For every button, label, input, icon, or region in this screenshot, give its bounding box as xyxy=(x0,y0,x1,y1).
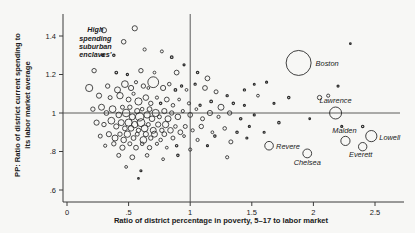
data-point-bubble xyxy=(139,68,143,72)
data-point-bubble xyxy=(273,102,275,104)
data-point-bubble xyxy=(135,113,143,121)
data-point-bubble xyxy=(214,135,216,137)
data-point-bubble xyxy=(161,85,166,90)
y-tick-label: 1 xyxy=(52,109,56,118)
data-point-bubble xyxy=(174,125,178,129)
data-point-bubble xyxy=(140,170,142,172)
data-point-bubble xyxy=(94,120,99,125)
data-point-bubble xyxy=(157,115,161,119)
data-point-bubble xyxy=(117,92,123,98)
data-point-bubble xyxy=(112,142,116,146)
data-point-bubble xyxy=(201,117,205,121)
data-point-bubble xyxy=(195,108,198,111)
data-point-bubble xyxy=(181,109,184,112)
data-point-bubble xyxy=(309,118,311,120)
data-point-bubble xyxy=(102,122,106,126)
data-point-bubble xyxy=(143,132,148,137)
y-tick-label: 1.4 xyxy=(46,32,56,41)
data-point-bubble xyxy=(159,138,163,142)
data-point-bubble xyxy=(138,178,140,180)
data-point-bubble xyxy=(183,64,185,66)
data-point-bubble xyxy=(143,95,149,101)
data-point-bubble xyxy=(132,92,135,95)
data-point-bubble xyxy=(126,97,131,102)
data-point-bubble xyxy=(253,83,255,85)
city-bubble-revere xyxy=(265,141,274,150)
data-point-bubble xyxy=(350,43,352,45)
data-point-bubble xyxy=(155,142,158,145)
city-bubble-chelsea xyxy=(303,149,312,158)
data-point-bubble xyxy=(135,98,142,105)
data-point-bubble xyxy=(131,136,136,141)
data-point-bubble xyxy=(115,87,121,93)
data-point-bubble xyxy=(174,70,179,75)
data-point-bubble xyxy=(124,131,130,137)
y-axis-title: its labor market average xyxy=(23,61,32,148)
chart-canvas: .6.811.21.40.511.522.5BostonLawrenceMald… xyxy=(0,0,415,233)
data-point-bubble xyxy=(118,132,122,136)
data-point-bubble xyxy=(196,138,199,141)
data-point-bubble xyxy=(145,154,149,158)
data-point-bubble xyxy=(96,93,101,98)
data-point-bubble xyxy=(217,115,220,118)
y-tick-label: .6 xyxy=(50,186,56,195)
data-point-bubble xyxy=(248,125,250,127)
data-point-bubble xyxy=(147,87,150,90)
data-point-bubble xyxy=(165,146,168,149)
data-point-bubble xyxy=(112,135,118,141)
data-point-bubble xyxy=(183,135,186,138)
data-point-bubble xyxy=(120,105,124,109)
data-point-bubble xyxy=(148,77,159,88)
data-point-bubble xyxy=(123,126,128,131)
data-point-bubble xyxy=(229,140,233,144)
data-point-bubble xyxy=(226,95,228,97)
x-axis-title: Ratio of district percentage in poverty,… xyxy=(114,216,329,225)
data-point-bubble xyxy=(120,145,125,150)
data-point-bubble xyxy=(253,114,255,116)
data-point-bubble xyxy=(126,73,128,75)
data-point-bubble xyxy=(337,85,339,87)
data-point-bubble xyxy=(171,104,175,108)
data-point-bubble xyxy=(178,98,181,101)
data-point-bubble xyxy=(104,144,107,147)
data-point-bubble xyxy=(117,153,121,157)
data-point-bubble xyxy=(361,125,363,127)
city-label-everett: Everett xyxy=(349,150,373,159)
data-point-bubble xyxy=(147,107,152,112)
data-point-bubble xyxy=(205,76,210,81)
data-point-bubble xyxy=(149,101,153,105)
data-point-bubble xyxy=(164,97,169,102)
city-bubble-malden xyxy=(341,136,350,145)
data-point-bubble xyxy=(218,104,224,110)
data-point-bubble xyxy=(149,116,155,122)
data-point-bubble xyxy=(134,145,139,150)
data-point-bubble xyxy=(125,119,132,126)
data-point-bubble xyxy=(150,127,156,133)
data-point-bubble xyxy=(175,145,177,147)
data-point-bubble xyxy=(132,26,137,31)
data-point-bubble xyxy=(210,100,213,103)
y-tick-label: 1.2 xyxy=(46,70,56,79)
data-point-bubble xyxy=(156,122,161,127)
data-point-bubble xyxy=(153,71,156,74)
data-point-bubble xyxy=(134,81,137,84)
data-point-bubble xyxy=(125,166,128,169)
x-tick-label: 2.5 xyxy=(370,208,380,217)
data-point-bubble xyxy=(128,142,132,146)
data-point-bubble xyxy=(122,81,129,88)
data-point-bubble xyxy=(185,89,188,92)
city-label-lawrence: Lawrence xyxy=(320,96,352,105)
data-point-bubble xyxy=(203,86,208,91)
data-point-bubble xyxy=(199,104,201,106)
data-point-bubble xyxy=(214,90,218,94)
data-point-bubble xyxy=(257,94,260,97)
city-bubble-boston xyxy=(286,50,311,75)
data-point-bubble xyxy=(167,82,171,86)
city-label-revere: Revere xyxy=(276,142,300,151)
data-point-bubble xyxy=(115,71,118,74)
x-tick-label: 0 xyxy=(65,208,69,217)
data-point-bubble xyxy=(147,145,151,149)
data-point-bubble xyxy=(98,134,102,138)
data-point-bubble xyxy=(128,85,133,90)
data-point-bubble xyxy=(206,145,208,147)
